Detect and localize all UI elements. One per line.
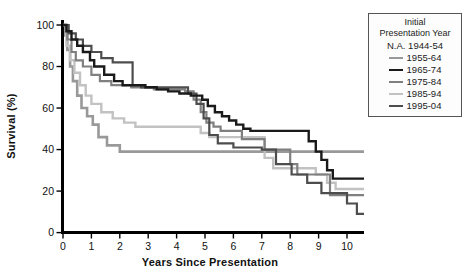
y-tick-label: 60 xyxy=(42,102,54,114)
y-tick-label: 80 xyxy=(42,60,54,72)
legend-item-label: 1975-84 xyxy=(407,76,442,88)
legend-item-label: 1995-04 xyxy=(407,100,442,112)
legend-item-label: 1955-64 xyxy=(407,52,442,64)
x-tick-label: 5 xyxy=(202,240,208,252)
x-tick-label: 0 xyxy=(60,240,66,252)
survival-curve-1965-74 xyxy=(63,25,364,179)
x-tick-label: 9 xyxy=(316,240,322,252)
legend-title: Initial Presentation Year xyxy=(372,17,458,39)
survival-figure: 020406080100012345678910 Survival (%) Ye… xyxy=(0,0,469,279)
survival-curve-1975-84 xyxy=(63,25,364,195)
legend-line-swatch xyxy=(389,81,403,83)
legend-title-line1: Initial xyxy=(372,17,458,28)
survival-curve-1955-64 xyxy=(63,25,364,152)
legend-line-swatch xyxy=(389,93,403,95)
y-tick-label: 40 xyxy=(42,143,54,155)
legend-title-line2: Presentation Year xyxy=(372,28,458,39)
x-axis-title: Years Since Presentation xyxy=(90,256,330,268)
x-tick-label: 4 xyxy=(174,240,180,252)
x-tick-label: 1 xyxy=(88,240,94,252)
legend-line-swatch xyxy=(389,57,403,59)
legend-item-label: N.A. 1944-54 xyxy=(387,40,443,52)
y-tick-label: 100 xyxy=(36,19,54,31)
y-tick-label: 20 xyxy=(42,185,54,197)
legend-item: 1965-74 xyxy=(372,64,458,76)
x-tick-label: 6 xyxy=(230,240,236,252)
legend-line-swatch xyxy=(389,69,403,71)
legend-item: 1985-94 xyxy=(372,88,458,100)
legend-item: 1975-84 xyxy=(372,76,458,88)
legend-item: 1995-04 xyxy=(372,100,458,112)
legend-line-swatch xyxy=(389,105,403,107)
y-tick-label: 0 xyxy=(48,226,54,238)
x-tick-label: 7 xyxy=(259,240,265,252)
x-tick-label: 2 xyxy=(117,240,123,252)
legend-entries: N.A. 1944-54 1955-64 1965-74 1975-84 198… xyxy=(372,40,458,112)
x-tick-label: 8 xyxy=(287,240,293,252)
legend-item: 1955-64 xyxy=(372,52,458,64)
legend-item-label: 1985-94 xyxy=(407,88,442,100)
y-axis-title: Survival (%) xyxy=(5,71,17,181)
legend-item-label: 1965-74 xyxy=(407,64,442,76)
x-tick-label: 10 xyxy=(341,240,353,252)
survival-curve-1995-04 xyxy=(63,25,364,214)
x-tick-label: 3 xyxy=(145,240,151,252)
legend-box: Initial Presentation Year N.A. 1944-54 1… xyxy=(368,13,462,117)
legend-item: N.A. 1944-54 xyxy=(372,40,458,52)
